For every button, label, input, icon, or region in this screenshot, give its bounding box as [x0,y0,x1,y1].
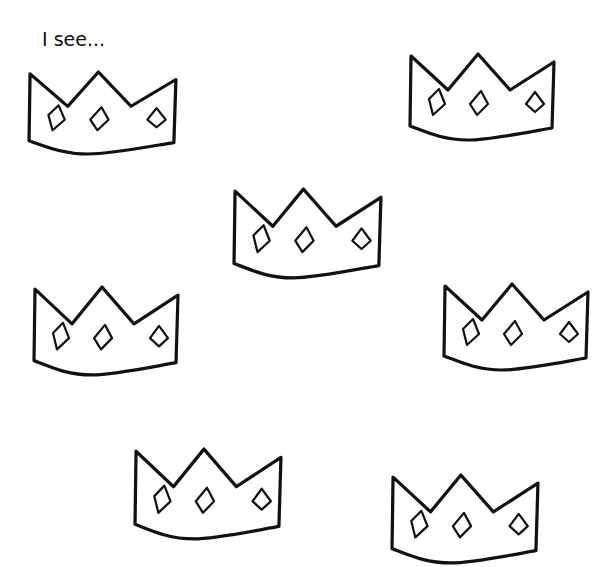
prompt-text: I see... [42,28,105,50]
crown-icon [390,473,542,565]
crown-icon [32,285,182,377]
crown-icon [442,282,592,372]
crown-icon [27,70,180,156]
crown-icon [133,447,285,541]
worksheet-page: I see... [0,0,614,567]
crown-icon [232,187,385,280]
crown-icon [408,52,558,142]
